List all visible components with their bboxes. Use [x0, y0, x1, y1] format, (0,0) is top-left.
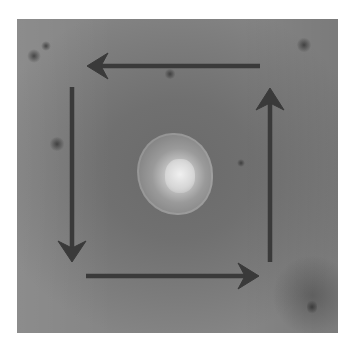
- arrow-down-icon: [58, 87, 86, 262]
- arrow-left-icon: [87, 53, 260, 79]
- arrow-up-icon: [256, 88, 284, 262]
- arrows-overlay: [0, 0, 354, 351]
- arrow-right-icon: [86, 263, 259, 289]
